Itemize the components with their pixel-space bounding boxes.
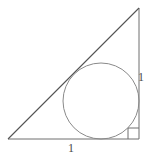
horizontal-side-label: 1 xyxy=(68,142,74,154)
geometry-canvas xyxy=(0,0,149,158)
geometry-figure: 1 1 xyxy=(0,0,149,158)
right-angle-icon xyxy=(128,128,139,139)
vertical-side-label: 1 xyxy=(138,71,144,83)
triangle-hypotenuse xyxy=(8,8,139,139)
